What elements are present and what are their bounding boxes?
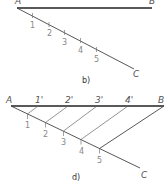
label-c: C [133,69,140,79]
division-4: 4 [79,147,84,156]
label-a: A [14,0,21,6]
label-a: A [5,95,12,105]
figure-d: A B C 1' 2' 3' 4' 1 2 3 4 5 d) [5,95,164,182]
label-b: B [149,0,155,6]
projected-1: 1' [35,95,43,105]
label-b: B [158,95,164,105]
parallel-lines [28,106,165,149]
line-division-diagram: A B C 1 2 3 4 5 b) A B C 1' 2' 3' [0,0,166,195]
division-2: 2 [47,29,52,38]
projected-2: 2' [65,95,73,105]
division-3: 3 [62,38,67,47]
projected-4: 4' [125,95,133,105]
figure-b: A B C 1 2 3 4 5 b) [14,0,155,85]
caption-b: b) [82,76,90,85]
division-2: 2 [43,130,48,139]
division-1: 1 [30,21,35,30]
ray-ac [11,106,140,168]
label-c: C [141,170,148,180]
caption-d: d) [72,173,80,182]
division-3: 3 [61,138,66,147]
division-4: 4 [78,46,83,55]
projected-3: 3' [95,95,103,105]
ray-ac [17,8,134,69]
division-5: 5 [97,156,102,165]
division-5: 5 [94,55,99,64]
division-1: 1 [25,121,30,130]
